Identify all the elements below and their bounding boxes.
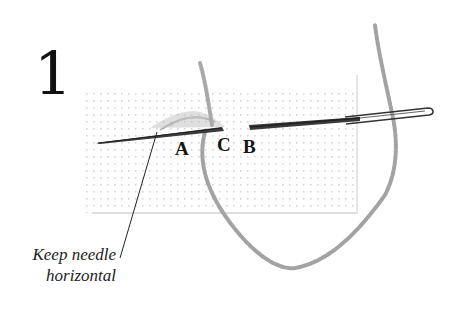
step-number: 1 [34,44,72,104]
caption-line-2: horizontal [20,265,116,286]
needle-eye [345,108,433,124]
point-label-a: A [175,139,189,158]
point-label-b: B [243,137,256,156]
stitch-diagram: 1 A C B Keep needle horizontal [0,0,457,312]
caption: Keep needle horizontal [20,244,116,287]
caption-line-1: Keep needle [20,244,116,265]
point-label-c: C [217,135,231,154]
